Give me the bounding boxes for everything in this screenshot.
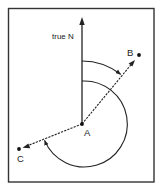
diagram-frame <box>9 9 155 183</box>
point-a-label: A <box>84 127 91 138</box>
point-c-label: C <box>17 153 24 164</box>
point-c-dot <box>17 147 21 151</box>
point-a-dot <box>80 122 84 126</box>
point-b-dot <box>137 53 141 57</box>
point-b-label: B <box>127 47 133 58</box>
bearing-diagram: true N A B C <box>0 0 161 193</box>
true-north-label: true N <box>52 32 74 41</box>
